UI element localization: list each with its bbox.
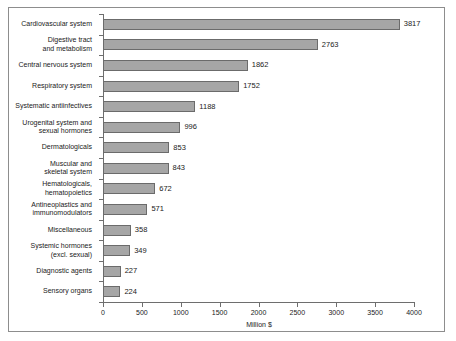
x-axis-tick-label: 3500	[355, 308, 395, 317]
x-axis-tick-label: 4000	[394, 308, 434, 317]
category-label-text: Dermatologicals	[0, 143, 92, 152]
category-label: Miscellaneous	[0, 226, 97, 235]
category-label-text: Antineoplastics and immunomodulators	[0, 201, 92, 218]
x-axis-tick-label: 3000	[316, 308, 356, 317]
category-label-text: Cardiovascular system	[0, 20, 92, 29]
x-axis-tick-label: 1500	[200, 308, 240, 317]
bar	[103, 19, 400, 30]
bar	[103, 142, 169, 153]
category-label: Sensory organs	[0, 287, 97, 296]
bar	[103, 183, 155, 194]
y-axis-tick	[99, 96, 103, 97]
x-axis-tick	[375, 303, 376, 307]
x-axis-tick	[414, 303, 415, 307]
x-axis-tick-label: 1000	[161, 308, 201, 317]
y-axis-tick	[99, 302, 103, 303]
bar-value-label: 349	[134, 246, 147, 255]
bar-value-label: 1188	[199, 102, 215, 111]
x-axis-tick	[103, 303, 104, 307]
category-label-text: Urogenital system and sexual hormones	[0, 119, 92, 136]
bar-value-label: 853	[173, 143, 186, 152]
bar-value-label: 843	[173, 163, 186, 172]
y-axis-tick	[99, 261, 103, 262]
category-label-text: Systemic hormones (excl. sexual)	[0, 242, 92, 259]
y-axis-tick	[99, 117, 103, 118]
y-axis-tick	[99, 199, 103, 200]
y-axis-tick	[99, 240, 103, 241]
bar-value-label: 571	[151, 204, 164, 213]
category-label: Urogenital system and sexual hormones	[0, 119, 97, 136]
category-label: Respiratory system	[0, 82, 97, 91]
bar	[103, 81, 239, 92]
bar	[103, 101, 195, 112]
y-axis-tick	[99, 137, 103, 138]
bar-value-label: 996	[184, 122, 197, 131]
y-axis-tick	[99, 179, 103, 180]
x-axis-tick	[142, 303, 143, 307]
x-axis-tick-label: 500	[122, 308, 162, 317]
bar-value-label: 2763	[322, 40, 339, 49]
x-axis-tick-label: 2500	[277, 308, 317, 317]
category-label: Muscular and skeletal system	[0, 160, 97, 177]
chart-figure: 3817276318621752118899685384367257135834…	[0, 0, 456, 341]
category-label-text: Diagnostic agents	[0, 267, 92, 276]
category-label: Dermatologicals	[0, 143, 97, 152]
category-label-text: Respiratory system	[0, 82, 92, 91]
category-label-text: Sensory organs	[0, 287, 92, 296]
y-axis-line	[103, 14, 104, 303]
x-axis-tick	[336, 303, 337, 307]
y-axis-tick	[99, 35, 103, 36]
category-label-text: Systematic antiinfectives	[0, 102, 92, 111]
category-label: Systemic hormones (excl. sexual)	[0, 242, 97, 259]
bar-value-label: 224	[124, 287, 137, 296]
category-label-text: Muscular and skeletal system	[0, 160, 92, 177]
x-axis-tick	[297, 303, 298, 307]
x-axis-tick-label: 2000	[239, 308, 279, 317]
category-label-text: Miscellaneous	[0, 226, 92, 235]
x-axis-title: Million $	[103, 320, 415, 329]
bar-value-label: 672	[159, 184, 172, 193]
category-label-text: Hematologicals, hematopoietics	[0, 180, 92, 197]
bar	[103, 286, 120, 297]
y-axis-tick	[99, 220, 103, 221]
category-label: Diagnostic agents	[0, 267, 97, 276]
category-label: Hematologicals, hematopoietics	[0, 180, 97, 197]
bar-value-label: 1752	[243, 81, 260, 90]
x-axis-tick	[220, 303, 221, 307]
bar	[103, 163, 169, 174]
bar	[103, 245, 130, 256]
y-axis-tick	[99, 14, 103, 15]
category-label-text: Central nervous system	[0, 61, 92, 70]
bar	[103, 204, 147, 215]
x-axis-tick-label: 0	[83, 308, 123, 317]
bar	[103, 39, 318, 50]
bar	[103, 225, 131, 236]
bar-value-label: 1862	[252, 60, 269, 69]
bar-value-label: 3817	[404, 19, 421, 28]
y-axis-tick	[99, 158, 103, 159]
y-axis-tick	[99, 55, 103, 56]
y-axis-tick	[99, 76, 103, 77]
category-label: Cardiovascular system	[0, 20, 97, 29]
category-label: Digestive tract and metabolism	[0, 36, 97, 53]
x-axis-tick	[259, 303, 260, 307]
category-label: Central nervous system	[0, 61, 97, 70]
bar-value-label: 358	[135, 225, 148, 234]
category-label: Systematic antiinfectives	[0, 102, 97, 111]
plot-area	[103, 14, 414, 302]
bar	[103, 122, 180, 133]
bar-value-label: 227	[125, 266, 138, 275]
bar	[103, 266, 121, 277]
y-axis-tick	[99, 281, 103, 282]
bar	[103, 60, 248, 71]
category-label-text: Digestive tract and metabolism	[0, 36, 92, 53]
x-axis-tick	[181, 303, 182, 307]
category-label: Antineoplastics and immunomodulators	[0, 201, 97, 218]
